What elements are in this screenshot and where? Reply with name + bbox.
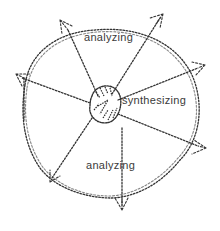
arrow-top-left-icon <box>60 20 72 34</box>
arrow-top-right-icon <box>150 14 163 28</box>
center-synthesizing-label: synthesizing <box>122 95 186 106</box>
arrowheads <box>16 14 206 210</box>
bottom-analyzing-label: analyzing <box>86 160 135 171</box>
top-analyzing-label: analyzing <box>84 32 133 43</box>
synthesizing-core <box>90 86 121 123</box>
arrow-left-icon <box>16 74 30 120</box>
outer-circle <box>23 29 199 198</box>
arrow-bottom-right-icon <box>192 140 206 154</box>
arrow-right-icon <box>192 62 205 75</box>
